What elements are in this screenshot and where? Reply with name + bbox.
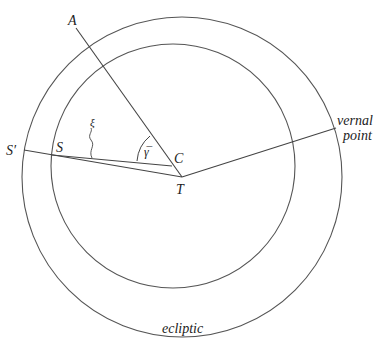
apogee-line [76,28,182,177]
eccentric-circle [51,44,295,288]
label-a: A [67,13,77,28]
label-c: C [174,151,184,166]
label-s: S [56,140,63,155]
line-s-c [52,155,172,166]
xi-pointer [90,128,93,158]
label-t: T [176,182,185,197]
line-s-prime-t [24,150,182,177]
vernal-line [182,128,336,177]
ecliptic-diagram: A S′ S ξ γ̅ C T vernal point ecliptic [0,0,379,348]
label-vernal: vernal [337,113,373,128]
label-gamma-bar: γ̅ [144,145,153,159]
label-s-prime: S′ [6,143,17,158]
label-ecliptic: ecliptic [162,321,204,336]
label-point: point [342,128,373,143]
label-xi: ξ [90,116,95,129]
